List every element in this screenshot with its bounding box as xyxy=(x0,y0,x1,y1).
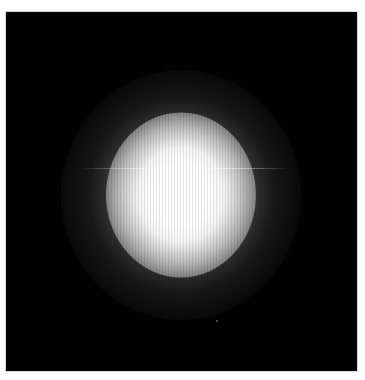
horizontal-streak xyxy=(80,168,290,169)
dust-speck xyxy=(216,320,218,322)
image-frame: Glowing white light spot centered on a b… xyxy=(0,0,365,380)
image-description: Glowing white light spot centered on a b… xyxy=(6,12,7,13)
photograph: Glowing white light spot centered on a b… xyxy=(6,12,357,371)
